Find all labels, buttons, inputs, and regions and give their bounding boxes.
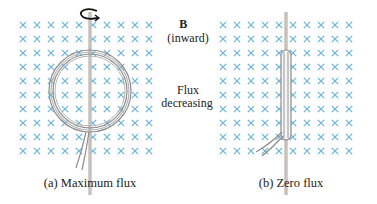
field-into-page-icon [346, 64, 352, 70]
field-into-page-icon [132, 134, 138, 140]
field-into-page-icon [132, 78, 138, 84]
field-into-page-icon [220, 36, 226, 42]
field-into-page-icon [48, 134, 54, 140]
field-into-page-icon [76, 106, 82, 112]
field-into-page-icon [234, 36, 240, 42]
caption-a: (a) Maximum flux [30, 176, 150, 191]
field-into-page-icon [318, 36, 324, 42]
field-into-page-icon [318, 148, 324, 154]
field-into-page-icon [132, 106, 138, 112]
lead-wire [82, 132, 89, 170]
field-into-page-icon [62, 106, 68, 112]
field-into-page-icon [248, 36, 254, 42]
field-into-page-icon [220, 64, 226, 70]
field-into-page-icon [276, 22, 282, 28]
field-into-page-icon [34, 78, 40, 84]
field-into-page-icon [346, 148, 352, 154]
field-into-page-icon [248, 106, 254, 112]
field-into-page-icon [234, 50, 240, 56]
field-into-page-icon [76, 22, 82, 28]
field-into-page-icon [132, 92, 138, 98]
field-into-page-icon [104, 106, 110, 112]
field-into-page-icon [20, 106, 26, 112]
field-into-page-icon [220, 78, 226, 84]
field-into-page-icon [290, 36, 296, 42]
field-into-page-icon [48, 120, 54, 126]
field-into-page-icon [234, 92, 240, 98]
field-into-page-icon [262, 134, 268, 140]
field-into-page-icon [332, 148, 338, 154]
field-into-page-icon [304, 78, 310, 84]
field-into-page-icon [118, 148, 124, 154]
field-into-page-icon [48, 36, 54, 42]
field-into-page-icon [234, 120, 240, 126]
field-into-page-icon [262, 22, 268, 28]
field-into-page-icon [318, 134, 324, 140]
field-into-page-icon [34, 22, 40, 28]
field-into-page-icon [220, 148, 226, 154]
field-into-page-icon [220, 92, 226, 98]
field-into-page-icon [146, 64, 152, 70]
field-into-page-icon [304, 148, 310, 154]
field-into-page-icon [234, 134, 240, 140]
field-into-page-icon [220, 106, 226, 112]
field-into-page-icon [146, 134, 152, 140]
field-into-page-icon [146, 148, 152, 154]
field-into-page-icon [20, 120, 26, 126]
field-into-page-icon [20, 64, 26, 70]
field-into-page-icon [104, 148, 110, 154]
field-into-page-icon [132, 50, 138, 56]
field-into-page-icon [304, 36, 310, 42]
field-into-page-icon [48, 22, 54, 28]
field-into-page-icon [262, 36, 268, 42]
field-into-page-icon [62, 148, 68, 154]
field-into-page-icon [20, 92, 26, 98]
field-into-page-icon [262, 50, 268, 56]
field-into-page-icon [346, 120, 352, 126]
field-into-page-icon [132, 36, 138, 42]
field-into-page-icon [118, 22, 124, 28]
field-into-page-icon [318, 22, 324, 28]
field-into-page-icon [318, 120, 324, 126]
field-into-page-icon [248, 50, 254, 56]
field-into-page-icon [34, 36, 40, 42]
field-into-page-icon [318, 78, 324, 84]
field-into-page-icon [318, 92, 324, 98]
field-into-page-icon [304, 134, 310, 140]
field-into-page-icon [20, 148, 26, 154]
field-into-page-icon [234, 64, 240, 70]
field-into-page-icon [290, 22, 296, 28]
field-into-page-icon [234, 78, 240, 84]
field-into-page-icon [332, 22, 338, 28]
field-into-page-icon [248, 148, 254, 154]
field-into-page-icon [262, 64, 268, 70]
field-into-page-icon [118, 36, 124, 42]
field-into-page-icon [132, 148, 138, 154]
field-into-page-icon [262, 120, 268, 126]
field-into-page-icon [304, 22, 310, 28]
field-into-page-icon [262, 106, 268, 112]
coil-face-on [49, 12, 131, 195]
field-into-page-icon [132, 22, 138, 28]
field-into-page-icon [248, 134, 254, 140]
field-into-page-icon [346, 78, 352, 84]
field-into-page-icon [20, 22, 26, 28]
field-into-page-icon [220, 120, 226, 126]
field-into-page-icon [34, 120, 40, 126]
flux-label-line2: decreasing [156, 97, 218, 110]
field-into-page-icon [104, 78, 110, 84]
field-into-page-icon [332, 134, 338, 140]
field-into-page-icon [34, 64, 40, 70]
field-into-page-icon [104, 64, 110, 70]
field-into-page-icon [20, 134, 26, 140]
field-into-page-icon [146, 22, 152, 28]
field-into-page-icon [346, 106, 352, 112]
field-into-page-icon [62, 50, 68, 56]
field-into-page-icon [318, 64, 324, 70]
field-into-page-icon [304, 50, 310, 56]
field-into-page-icon [304, 64, 310, 70]
field-into-page-icon [34, 92, 40, 98]
field-into-page-icon [234, 106, 240, 112]
field-into-page-icon [248, 22, 254, 28]
field-into-page-icon [104, 36, 110, 42]
